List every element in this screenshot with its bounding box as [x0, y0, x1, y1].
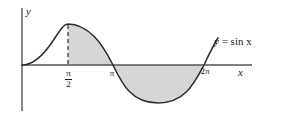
tick-label-two-pi: 2π [197, 67, 213, 76]
fraction-pi-over-two: π 2 [65, 69, 72, 90]
y-axis-label: y [26, 6, 31, 17]
x-axis-label: x [238, 67, 243, 78]
curve-equation-label: y = sin x [214, 36, 252, 47]
sine-graph-figure: y x y = sin x π 2 π 2π [0, 0, 281, 121]
tick-label-pi: π [106, 69, 118, 78]
fraction-denominator: 2 [65, 80, 72, 89]
tick-label-pi-over-two: π 2 [60, 69, 77, 90]
shaded-region-negative [113, 65, 204, 103]
plot-area [0, 0, 281, 121]
sine-curve [22, 24, 218, 103]
equation-rhs: sin x [231, 35, 252, 47]
equation-equals: = [222, 35, 228, 47]
equation-lhs: y [214, 35, 219, 47]
shaded-region-positive [68, 24, 113, 65]
fraction-numerator: π [65, 69, 72, 78]
